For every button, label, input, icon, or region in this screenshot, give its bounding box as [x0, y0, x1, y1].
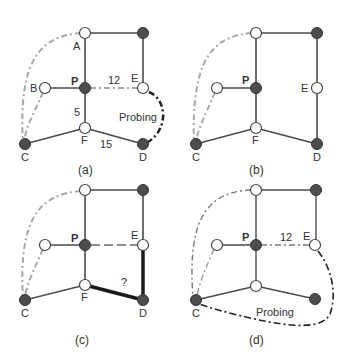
- label-b: B: [30, 82, 37, 94]
- node-top-right: [311, 185, 322, 196]
- node-f: [251, 123, 262, 134]
- panel-d: P E 12 C Probing (d): [191, 185, 334, 348]
- label-a: A: [73, 40, 81, 52]
- gray-path-b-c: [25, 249, 43, 297]
- caption-d: (d): [249, 333, 264, 347]
- edge-c-f: [25, 128, 85, 144]
- label-d: D: [139, 307, 147, 319]
- node-f: [80, 280, 91, 291]
- label-f: F: [81, 291, 88, 303]
- edge-c-f: [196, 128, 256, 144]
- node-b: [40, 240, 51, 251]
- node-a: [251, 185, 262, 196]
- node-p: [251, 240, 262, 251]
- gray-path-b-c: [197, 249, 214, 297]
- node-c: [20, 139, 31, 150]
- edge-f-d: [256, 286, 315, 299]
- label-e: E: [301, 82, 308, 94]
- edge-f-d: [85, 128, 143, 144]
- edge-f-d: [256, 128, 317, 144]
- edge-c-f: [25, 285, 85, 300]
- label-c: C: [192, 307, 200, 319]
- weight-f-d: 15: [100, 138, 112, 150]
- label-c: C: [21, 307, 29, 319]
- weight-p-e: 12: [280, 231, 292, 243]
- node-top-right: [138, 185, 149, 196]
- label-f: F: [81, 134, 88, 146]
- caption-a: (a): [78, 163, 93, 177]
- node-p: [80, 240, 91, 251]
- label-c: C: [192, 151, 200, 163]
- label-f: F: [252, 134, 259, 146]
- question-annotation: ?: [121, 276, 127, 288]
- node-b: [212, 83, 223, 94]
- label-p: P: [242, 231, 249, 243]
- node-d: [138, 139, 149, 150]
- node-a: [80, 185, 91, 196]
- label-p: P: [71, 75, 78, 87]
- label-e: E: [131, 72, 138, 84]
- label-p: P: [71, 232, 78, 244]
- node-top-right: [138, 28, 149, 39]
- node-f: [251, 281, 262, 292]
- node-b: [40, 83, 51, 94]
- caption-c: (c): [75, 333, 89, 347]
- panel-b: P E F C D (b): [191, 28, 323, 178]
- node-p: [80, 83, 91, 94]
- edge-c-f: [196, 286, 256, 300]
- panel-c: P E ? F C D (c): [20, 185, 149, 348]
- caption-b: (b): [249, 163, 264, 177]
- node-c: [191, 139, 202, 150]
- probing-annotation: Probing: [119, 111, 157, 123]
- network-probing-figure: A B P E 12 5 15 F C D Probing (a) P E F …: [0, 0, 349, 363]
- node-f: [80, 123, 91, 134]
- node-d: [310, 294, 321, 305]
- label-c: C: [21, 151, 29, 163]
- node-top-right: [312, 28, 323, 39]
- node-e: [138, 240, 149, 251]
- node-a: [251, 28, 262, 39]
- node-a: [80, 28, 91, 39]
- label-e: E: [131, 229, 138, 241]
- label-d: D: [139, 151, 147, 163]
- probing-annotation: Probing: [256, 306, 294, 318]
- node-b: [212, 240, 223, 251]
- node-p: [251, 83, 262, 94]
- node-d: [312, 139, 323, 150]
- gray-path-b-c: [196, 92, 215, 142]
- node-c: [20, 295, 31, 306]
- gray-path-b-c: [24, 92, 43, 142]
- node-e: [312, 83, 323, 94]
- node-e: [138, 83, 149, 94]
- node-e: [310, 240, 321, 251]
- label-p: P: [242, 74, 249, 86]
- weight-p-e: 12: [108, 74, 120, 86]
- label-d: D: [313, 151, 321, 163]
- thick-edge-f-d: [85, 285, 143, 300]
- weight-p-f: 5: [74, 106, 80, 118]
- node-d: [138, 295, 149, 306]
- panel-a: A B P E 12 5 15 F C D Probing (a): [20, 28, 164, 178]
- label-e: E: [303, 230, 310, 242]
- node-c: [191, 295, 202, 306]
